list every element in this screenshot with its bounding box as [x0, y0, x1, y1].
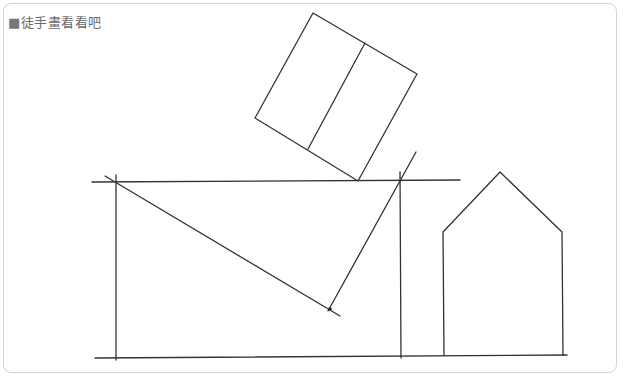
freehand-drawing-canvas [0, 0, 623, 379]
bottom-horizontal-line [95, 355, 567, 358]
house-outline [443, 172, 563, 355]
middle-vertical-line [400, 172, 401, 358]
diagonal-up-line [328, 152, 416, 311]
intersection-dot [328, 307, 332, 311]
rotated-rectangle-divider [308, 43, 365, 149]
top-horizontal-line [92, 180, 460, 182]
diagonal-down-line [105, 176, 340, 316]
